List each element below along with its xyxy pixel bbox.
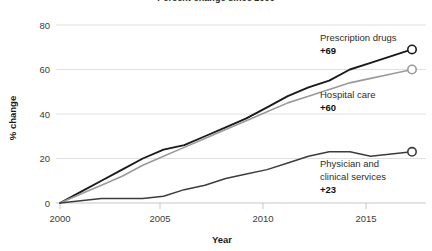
series-label-prescription-drugs: Prescription drugs: [320, 32, 397, 43]
xtick-label-2015: 2015: [355, 213, 376, 224]
ytick-label-0: 0: [45, 198, 50, 209]
series-annotations: Prescription drugs +69 Hospital care +60…: [320, 32, 397, 195]
series-value-physician: +23: [320, 184, 336, 195]
xtick-label-2005: 2005: [149, 213, 170, 224]
ytick-label-20: 20: [39, 153, 50, 164]
ytick-label-40: 40: [39, 109, 50, 120]
series-endpoint-hospital-care: [408, 65, 416, 73]
x-tick-marks: [60, 203, 366, 209]
series-label-physician-line2: clinical services: [320, 171, 386, 182]
series-endpoint-prescription-drugs: [408, 45, 416, 53]
chart-container: Percent change since 2000 80 60 40 20 0 …: [0, 0, 432, 251]
series-label-physician-line1: Physician and: [320, 158, 379, 169]
xtick-label-2000: 2000: [49, 213, 70, 224]
x-axis-tick-labels: 2000 2005 2010 2015: [49, 213, 376, 224]
chart-svg: 80 60 40 20 0 2000 2005 2010 2015 Year %…: [0, 0, 432, 251]
series-value-hospital-care: +60: [320, 102, 336, 113]
series-label-hospital-care: Hospital care: [320, 89, 375, 100]
ytick-label-60: 60: [39, 64, 50, 75]
ytick-label-80: 80: [39, 20, 50, 31]
series-endpoint-physician-and-clinical-services: [408, 148, 416, 156]
y-axis-title: % change: [7, 96, 18, 140]
series-value-prescription-drugs: +69: [320, 45, 336, 56]
xtick-label-2010: 2010: [252, 213, 273, 224]
y-axis-tick-labels: 80 60 40 20 0: [39, 20, 50, 209]
x-axis-title: Year: [212, 234, 232, 245]
